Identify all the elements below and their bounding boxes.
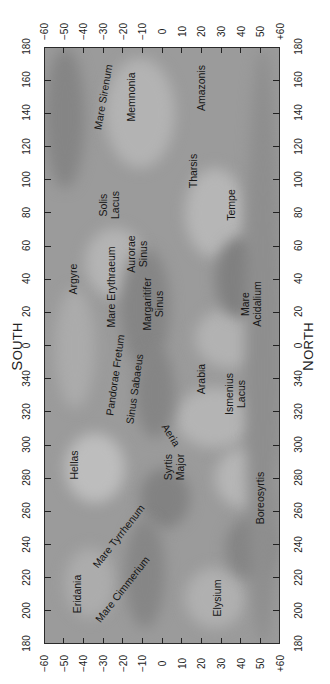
longitude-tick-right	[273, 312, 280, 313]
longitude-tick-right	[273, 146, 280, 147]
albedo-light-region	[55, 288, 95, 408]
longitude-tick-left	[44, 378, 51, 379]
longitude-label-right: 300	[293, 433, 304, 457]
latitude-tick-bottom	[103, 638, 104, 644]
longitude-label-right: 240	[293, 532, 304, 556]
longitude-label-left: 20	[21, 300, 32, 324]
longitude-label-left: 240	[21, 532, 32, 556]
albedo-dark-region	[45, 48, 85, 188]
latitude-tick-top	[162, 47, 163, 53]
mars-albedo-map	[44, 47, 280, 644]
latitude-tick-top	[103, 47, 104, 53]
latitude-label-bottom: 10	[176, 652, 187, 676]
longitude-label-right: 180	[293, 35, 304, 59]
longitude-label-left: 320	[21, 399, 32, 423]
feature-label-elysium: Elysium	[211, 579, 223, 616]
longitude-label-right: 40	[293, 267, 304, 291]
longitude-tick-right	[273, 544, 280, 545]
longitude-label-left: 180	[21, 632, 32, 656]
latitude-label-bottom: 50	[255, 652, 266, 676]
longitude-label-right: 180	[293, 632, 304, 656]
longitude-tick-left	[44, 511, 51, 512]
feature-label-line: Aurorae	[125, 236, 137, 273]
longitude-tick-right	[273, 179, 280, 180]
latitude-label-bottom: 40	[235, 652, 246, 676]
latitude-label-bottom: 30	[216, 652, 227, 676]
longitude-label-right: 20	[293, 300, 304, 324]
albedo-dark-region	[245, 48, 280, 644]
feature-label-line: Argyre	[67, 264, 79, 295]
latitude-label-bottom: −20	[117, 652, 128, 676]
latitude-tick-bottom	[142, 638, 143, 644]
longitude-label-right: 140	[293, 101, 304, 125]
feature-label-line: Ismenius	[223, 373, 235, 415]
longitude-tick-right	[273, 511, 280, 512]
feature-label-boreosyrtis: Boreosyrtis	[254, 472, 266, 525]
feature-label-syrtis-major: SyrtisMajor	[162, 453, 186, 479]
latitude-tick-top	[122, 47, 123, 53]
longitude-tick-left	[44, 113, 51, 114]
feature-label-line: Sinus	[152, 277, 164, 330]
longitude-tick-right	[273, 445, 280, 446]
feature-label-line: Major	[174, 453, 186, 479]
feature-label-line: Lacus	[235, 373, 247, 415]
feature-label-solis-lacus: SolisLacus	[97, 191, 121, 219]
longitude-label-right: 280	[293, 466, 304, 490]
feature-label-line: Mare	[238, 281, 250, 327]
longitude-label-left: 280	[21, 466, 32, 490]
feature-label-line: Hellas	[68, 450, 80, 479]
feature-label-ismenius-lacus: IsmeniusLacus	[223, 373, 247, 415]
longitude-tick-left	[44, 478, 51, 479]
feature-label-line: Tharsis	[188, 154, 200, 188]
feature-label-argyre: Argyre	[67, 264, 79, 295]
longitude-tick-right	[273, 246, 280, 247]
feature-label-mare-erythraeum: Mare Erythraeum	[105, 247, 117, 328]
latitude-tick-bottom	[181, 638, 182, 644]
longitude-tick-left	[44, 80, 51, 81]
latitude-label-top: +60	[275, 20, 286, 44]
longitude-label-right: 60	[293, 234, 304, 258]
latitude-label-bottom: −10	[137, 652, 148, 676]
latitude-tick-bottom	[260, 638, 261, 644]
latitude-tick-top	[142, 47, 143, 53]
longitude-tick-right	[273, 212, 280, 213]
longitude-label-left: 80	[21, 200, 32, 224]
feature-label-tempe: Tempe	[225, 189, 237, 221]
latitude-tick-top	[63, 47, 64, 53]
longitude-label-right: 120	[293, 134, 304, 158]
longitude-tick-left	[44, 212, 51, 213]
latitude-label-top: −20	[117, 20, 128, 44]
longitude-label-left: 260	[21, 499, 32, 523]
longitude-tick-right	[273, 411, 280, 412]
longitude-label-left: 100	[21, 167, 32, 191]
longitude-tick-left	[44, 146, 51, 147]
latitude-label-bottom: 20	[196, 652, 207, 676]
longitude-label-left: 220	[21, 565, 32, 589]
longitude-label-left: 180	[21, 35, 32, 59]
latitude-label-top: 10	[176, 20, 187, 44]
latitude-tick-bottom	[122, 638, 123, 644]
longitude-label-left: 140	[21, 101, 32, 125]
latitude-label-top: 40	[235, 20, 246, 44]
longitude-label-left: 60	[21, 234, 32, 258]
latitude-tick-top	[240, 47, 241, 53]
feature-label-line: Tempe	[225, 189, 237, 221]
feature-label-line: Solis	[97, 191, 109, 219]
longitude-tick-left	[44, 345, 51, 346]
feature-label-memnonia: Memnonia	[125, 72, 137, 121]
latitude-label-top: 30	[216, 20, 227, 44]
longitude-tick-left	[44, 544, 51, 545]
feature-label-line: Elysium	[211, 579, 223, 616]
latitude-tick-bottom	[240, 638, 241, 644]
feature-label-line: Margaritifer	[140, 277, 152, 330]
latitude-label-bottom: −60	[39, 652, 50, 676]
longitude-label-right: 80	[293, 200, 304, 224]
longitude-tick-right	[273, 478, 280, 479]
longitude-label-right: 160	[293, 68, 304, 92]
feature-label-aurorae-sinus: AuroraeSinus	[125, 236, 149, 273]
longitude-label-left: 40	[21, 267, 32, 291]
feature-label-line: Arabia	[196, 363, 208, 393]
latitude-label-top: 20	[196, 20, 207, 44]
longitude-label-right: 100	[293, 167, 304, 191]
feature-label-line: Sinus	[137, 236, 149, 273]
